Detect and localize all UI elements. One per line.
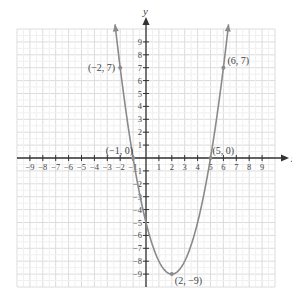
y-tick-label: −7 xyxy=(133,243,142,253)
point-label: (−2, 7) xyxy=(88,62,115,74)
y-tick-label: 5 xyxy=(138,89,142,99)
x-tick-label: −8 xyxy=(38,162,47,172)
x-axis-label: x xyxy=(290,152,292,164)
data-point xyxy=(209,156,213,160)
y-tick-label: 1 xyxy=(138,140,142,150)
data-point xyxy=(131,156,135,160)
x-tick-label: −2 xyxy=(116,162,125,172)
y-tick-label: 9 xyxy=(138,37,142,47)
data-point xyxy=(170,272,174,276)
x-tick-label: 1 xyxy=(157,162,161,172)
point-label: (5, 0) xyxy=(213,145,235,157)
x-tick-label: −9 xyxy=(25,162,34,172)
y-axis-label: y xyxy=(142,5,148,17)
x-tick-label: 7 xyxy=(234,162,238,172)
y-tick-label: −8 xyxy=(133,256,142,266)
point-label: (6, 7) xyxy=(227,55,249,67)
y-tick-label: −5 xyxy=(133,218,142,228)
point-label: (−1, 0) xyxy=(106,145,133,157)
x-tick-label: −6 xyxy=(64,162,73,172)
data-point xyxy=(118,66,122,70)
y-tick-label: −4 xyxy=(133,205,143,215)
x-tick-label: −5 xyxy=(77,162,86,172)
graph-canvas: −9−8−7−6−5−4−3−2−1123456789−9−8−7−6−5−4−… xyxy=(0,0,292,302)
y-tick-label: −9 xyxy=(133,269,142,279)
parabola-graph: −9−8−7−6−5−4−3−2−1123456789−9−8−7−6−5−4−… xyxy=(0,0,292,302)
x-tick-label: −3 xyxy=(103,162,112,172)
x-tick-label: 6 xyxy=(221,162,225,172)
x-tick-label: 3 xyxy=(183,162,187,172)
x-tick-label: 8 xyxy=(247,162,251,172)
x-tick-label: 9 xyxy=(260,162,264,172)
y-tick-label: 3 xyxy=(138,114,142,124)
data-point xyxy=(221,66,225,70)
y-tick-label: 2 xyxy=(138,127,142,137)
y-tick-label: −6 xyxy=(133,230,142,240)
x-tick-label: 2 xyxy=(170,162,174,172)
x-tick-label: −4 xyxy=(90,162,100,172)
y-tick-label: 8 xyxy=(138,50,142,60)
y-tick-label: 6 xyxy=(138,76,142,86)
x-tick-label: −7 xyxy=(51,162,60,172)
point-label: (2, −9) xyxy=(175,275,202,287)
x-tick-label: 4 xyxy=(195,162,200,172)
x-axis-arrow-icon xyxy=(281,155,289,162)
y-tick-label: 7 xyxy=(138,63,142,73)
y-axis-arrow-icon xyxy=(143,17,150,25)
